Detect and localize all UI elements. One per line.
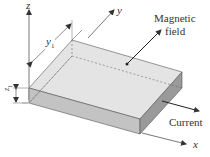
magnetic-field-label-line1: Magnetic <box>154 13 196 24</box>
y1-label-subscript: 1 <box>51 42 55 50</box>
magnetic-field-label-line2: field <box>165 26 185 37</box>
z1-label-subscript: 1 <box>7 85 13 88</box>
magnetic-field-arrow <box>127 30 161 64</box>
y-axis <box>88 10 114 38</box>
x-axis <box>142 133 186 144</box>
slab-diagram: z y x y1 z1 Magnetic field Current <box>0 0 210 157</box>
x-axis-label: x <box>193 139 198 150</box>
y-axis-label: y <box>117 5 122 16</box>
current-label: Current <box>169 117 203 128</box>
current-arrow <box>162 101 199 111</box>
z1-label-main: z <box>2 88 11 91</box>
y1-label: y1 <box>45 36 55 50</box>
y-axis-stub <box>72 30 82 40</box>
z1-label: z1 <box>3 85 13 91</box>
z-axis-label: z <box>26 0 30 11</box>
